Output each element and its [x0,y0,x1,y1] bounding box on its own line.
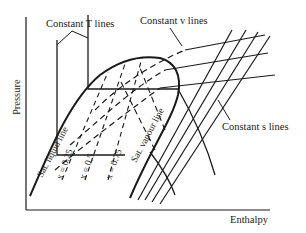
constant-s-label: Constant s lines [222,121,289,132]
p-h-diagram: Pressure Enthalpy Constant T lines Const… [0,0,306,233]
constant-t-label: Constant T lines [46,18,114,29]
x-axis-label: Enthalpy [230,214,269,225]
quality-lines [62,58,142,180]
quality-label-05: x = 0.5 [77,152,96,181]
quality-label-075: x = 0.75 [103,147,123,180]
constant-v-label: Constant v lines [140,15,208,26]
y-axis-label: Pressure [11,79,22,115]
